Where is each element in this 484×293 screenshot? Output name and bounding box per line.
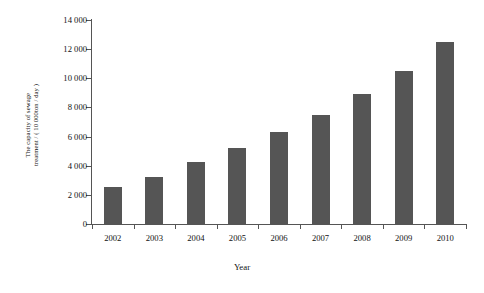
y-axis-tick-label: 6 000 [68,132,87,142]
x-axis-tick-label: 2004 [187,233,204,243]
bar [436,42,454,224]
bar [228,148,246,224]
bar [312,115,330,224]
x-axis-tick-label: 2009 [395,233,412,243]
bar [353,94,371,224]
x-axis-tick-label: 2006 [270,233,287,243]
x-axis-tick-mark [341,224,342,229]
x-axis-tick-mark [134,224,135,229]
y-axis-tick-label: 2 000 [68,190,87,200]
x-axis-tick-mark [300,224,301,229]
x-axis-tick-label: 2005 [229,233,246,243]
x-axis-tick-label: 2003 [146,233,163,243]
x-axis-tick-label: 2008 [354,233,371,243]
y-axis-tick-label: 8 000 [68,102,87,112]
x-axis-tick-mark [92,224,93,229]
bar [270,132,288,224]
bar [104,187,122,224]
x-axis-tick-mark [258,224,259,229]
x-axis-tick-mark [217,224,218,229]
bar [145,177,163,224]
y-axis-title: The capacity of sewage treatment / ( 10 … [20,60,44,190]
bar-chart: The capacity of sewage treatment / ( 10 … [0,0,484,293]
y-axis-title-line-2: treatment / ( 10 000ton / day ) [32,84,40,166]
x-axis-tick-mark [175,224,176,229]
y-axis-tick-label: 10 000 [63,73,87,83]
x-axis-tick-label: 2002 [104,233,121,243]
x-axis-tick-mark [424,224,425,229]
bars-layer [92,20,466,224]
x-axis-tick-label: 2010 [437,233,454,243]
bar [395,71,413,224]
x-axis-title: Year [0,262,484,272]
y-axis-title-line-1: The capacity of sewage [24,93,32,157]
x-axis-tick-mark [466,224,467,229]
y-axis-tick-label: 4 000 [68,161,87,171]
x-axis-tick-mark [383,224,384,229]
x-axis-tick-label: 2007 [312,233,329,243]
y-axis-tick-label: 14 000 [63,15,87,25]
y-axis-tick-label: 0 [83,219,87,229]
x-axis-line [91,224,467,225]
y-axis-tick-label: 12 000 [63,44,87,54]
bar [187,162,205,224]
